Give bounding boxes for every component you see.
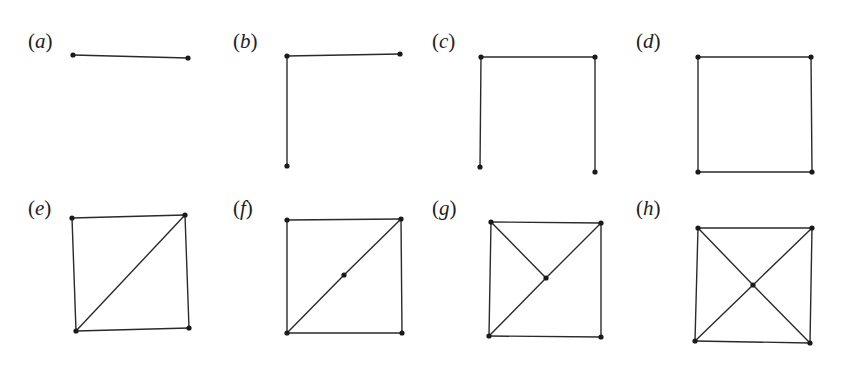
label-close-paren: ) <box>654 196 661 220</box>
graph-edge <box>489 336 601 337</box>
graph-edge <box>76 215 185 331</box>
graph-edge <box>695 285 753 341</box>
graph-vertex <box>284 53 289 58</box>
label-close-paren: ) <box>46 29 53 53</box>
graph-vertex <box>488 219 493 224</box>
graph-edge <box>287 219 401 220</box>
graph-edge <box>491 222 601 223</box>
panel-label-g: (g) <box>432 198 457 219</box>
panel-label-f: (f) <box>233 198 253 219</box>
graph-edge <box>491 222 546 278</box>
graph-vertex <box>486 333 491 338</box>
panel-label-d: (d) <box>636 31 661 52</box>
label-letter: c <box>439 29 448 53</box>
panel-a-graph <box>70 52 190 60</box>
graph-vertex <box>695 225 700 230</box>
graph-vertex <box>809 169 814 174</box>
graph-vertex <box>186 325 191 330</box>
panel-g-graph <box>486 219 603 339</box>
label-letter: a <box>35 29 46 53</box>
graph-vertex <box>692 338 697 343</box>
graph-vertex <box>750 282 755 287</box>
panel-b-graph <box>284 51 402 168</box>
graph-edge <box>489 222 491 336</box>
label-letter: g <box>439 196 450 220</box>
label-close-paren: ) <box>44 196 51 220</box>
graph-vertex <box>695 169 700 174</box>
graph-vertex <box>399 330 404 335</box>
graph-edge <box>287 54 400 56</box>
label-open-paren: ( <box>28 29 35 53</box>
graph-edge <box>546 223 601 278</box>
label-close-paren: ) <box>450 196 457 220</box>
graph-edge <box>72 215 185 218</box>
panel-h-graph <box>692 225 814 345</box>
label-close-paren: ) <box>654 29 661 53</box>
graph-vertex <box>809 225 814 230</box>
label-letter: d <box>643 29 654 53</box>
graph-vertex <box>341 272 346 277</box>
panel-e-graph <box>69 212 191 333</box>
label-letter: h <box>643 196 654 220</box>
label-open-paren: ( <box>233 29 240 53</box>
graph-figure <box>0 0 850 367</box>
graph-vertex <box>592 54 597 59</box>
label-open-paren: ( <box>28 196 35 220</box>
graph-edge <box>753 285 810 343</box>
graph-vertex <box>478 54 483 59</box>
label-close-paren: ) <box>246 196 253 220</box>
label-open-paren: ( <box>233 196 240 220</box>
panel-label-c: (c) <box>432 31 455 52</box>
label-open-paren: ( <box>636 196 643 220</box>
graph-vertex <box>73 328 78 333</box>
graph-edge <box>401 219 402 333</box>
graph-vertex <box>397 51 402 56</box>
graph-edge <box>489 278 546 336</box>
graph-vertex <box>69 215 74 220</box>
graph-edge <box>185 215 189 328</box>
graph-vertex <box>807 340 812 345</box>
graph-vertex <box>592 169 597 174</box>
label-open-paren: ( <box>432 196 439 220</box>
graph-edge <box>810 228 812 343</box>
label-close-paren: ) <box>251 29 258 53</box>
panel-label-e: (e) <box>28 198 51 219</box>
graph-edge <box>695 341 810 343</box>
graph-edge <box>698 228 753 285</box>
graph-edge <box>753 228 812 285</box>
graph-edge <box>480 57 481 167</box>
graph-vertex <box>598 334 603 339</box>
panel-c-graph <box>477 54 597 174</box>
graph-edge <box>76 328 189 331</box>
graph-vertex <box>477 164 482 169</box>
graph-edge <box>73 55 188 58</box>
graph-vertex <box>398 216 403 221</box>
label-open-paren: ( <box>636 29 643 53</box>
graph-vertex <box>695 54 700 59</box>
panel-label-b: (b) <box>233 31 258 52</box>
panel-label-a: (a) <box>28 31 53 52</box>
graph-edge <box>811 57 812 172</box>
label-close-paren: ) <box>448 29 455 53</box>
graph-vertex <box>284 217 289 222</box>
graph-edge <box>287 275 344 333</box>
graph-edge <box>72 218 76 331</box>
graph-vertex <box>185 55 190 60</box>
graph-vertex <box>284 163 289 168</box>
label-letter: e <box>35 196 44 220</box>
label-letter: b <box>240 29 251 53</box>
panel-f-graph <box>284 216 404 335</box>
graph-vertex <box>70 52 75 57</box>
graph-vertex <box>808 54 813 59</box>
panel-d-graph <box>695 54 814 174</box>
graph-edge <box>695 228 698 341</box>
graph-edge <box>344 219 401 275</box>
graph-vertex <box>284 330 289 335</box>
graph-vertex <box>182 212 187 217</box>
graph-vertex <box>598 220 603 225</box>
graph-vertex <box>543 275 548 280</box>
panel-label-h: (h) <box>636 198 661 219</box>
label-open-paren: ( <box>432 29 439 53</box>
